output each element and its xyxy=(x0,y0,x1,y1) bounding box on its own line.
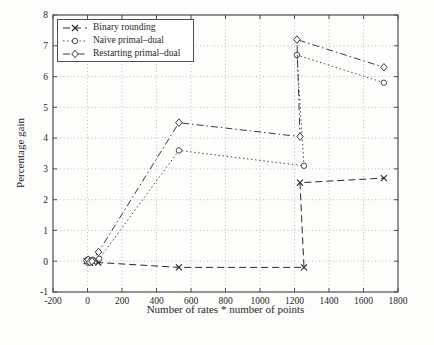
svg-text:4: 4 xyxy=(43,133,48,143)
svg-text:2: 2 xyxy=(43,195,48,205)
y-axis-label: Percentage gain xyxy=(14,73,26,233)
legend-label: Naive primal–dual xyxy=(93,35,164,46)
series-restarting-primal-dual xyxy=(83,36,387,266)
legend-item-binary-rounding: Binary rounding xyxy=(58,22,193,33)
legend-item-restarting-primal-dual: Restarting primal–dual xyxy=(58,48,193,59)
svg-text:3: 3 xyxy=(43,164,48,174)
svg-text:1: 1 xyxy=(43,226,48,236)
svg-text:-1: -1 xyxy=(40,287,48,297)
svg-text:5: 5 xyxy=(43,103,48,113)
svg-text:0: 0 xyxy=(43,257,48,267)
legend-label: Restarting primal–dual xyxy=(93,48,180,59)
legend-item-naive-primal-dual: Naive primal–dual xyxy=(58,35,193,46)
x-axis-label: Number of rates * number of points xyxy=(53,303,398,315)
legend-sample-circle-marker-icon xyxy=(62,36,88,46)
legend-sample-x-marker-icon xyxy=(62,23,88,33)
svg-text:6: 6 xyxy=(43,72,48,82)
svg-text:7: 7 xyxy=(43,41,48,51)
series-naive-primal-dual xyxy=(84,52,386,265)
legend-sample-diamond-marker-icon xyxy=(62,49,88,59)
legend: Binary rounding Naive primal–dual Restar… xyxy=(57,19,194,62)
series-binary-rounding xyxy=(84,175,387,270)
svg-text:8: 8 xyxy=(43,10,48,20)
y-tick-labels: -1012345678 xyxy=(40,10,48,297)
chart-figure: -200020040060080010001200140016001800-10… xyxy=(0,0,434,345)
legend-label: Binary rounding xyxy=(93,22,156,33)
